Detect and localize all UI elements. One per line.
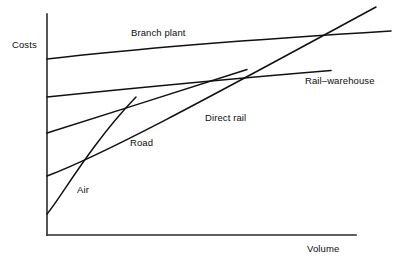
series-line-air [47, 97, 136, 214]
series-line-branch-plant [47, 31, 391, 59]
series-label-branch-plant: Branch plant [131, 27, 186, 38]
chart-plot-area [0, 0, 407, 265]
series-label-road: Road [130, 137, 153, 148]
series-line-direct-rail [47, 70, 247, 134]
series-label-rail-warehouse: Rail–warehouse [305, 75, 375, 86]
cost-volume-chart: Costs Volume Branch plant Rail–warehouse… [0, 0, 407, 265]
x-axis-label: Volume [307, 243, 339, 254]
series-label-air: Air [77, 184, 89, 195]
series-line-rail-warehouse [47, 71, 331, 98]
y-axis-label: Costs [12, 39, 37, 50]
series-label-direct-rail: Direct rail [205, 112, 246, 123]
